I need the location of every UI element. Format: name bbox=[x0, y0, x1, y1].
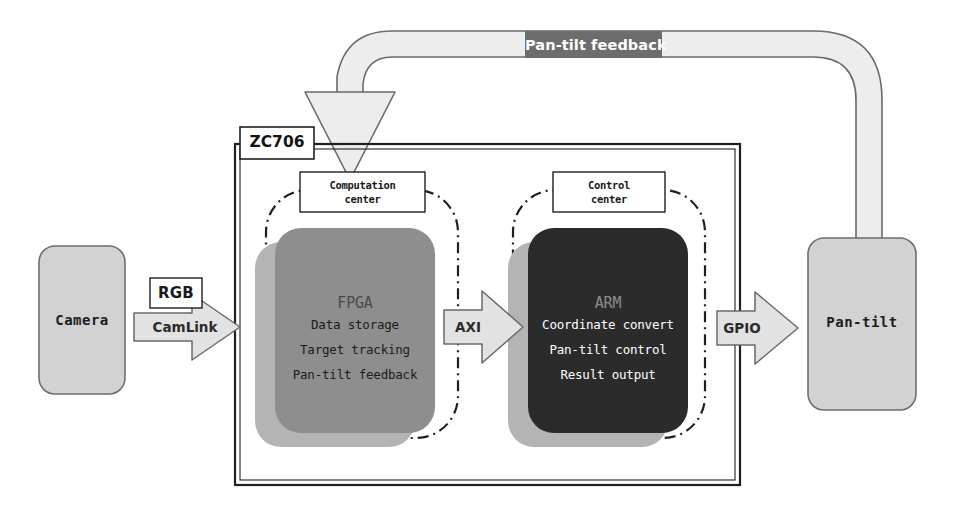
arm-item-2: Result output bbox=[520, 367, 696, 383]
feedback-arrowhead bbox=[305, 92, 395, 180]
arm-item-0: Coordinate convert bbox=[520, 317, 696, 333]
camlink-label: CamLink bbox=[140, 319, 230, 336]
camera-label: Camera bbox=[39, 312, 125, 330]
arm-item-1: Pan-tilt control bbox=[520, 342, 696, 358]
rgb-label: RGB bbox=[150, 284, 202, 303]
fpga-block bbox=[255, 228, 435, 447]
computation-center-label-line2: center bbox=[300, 192, 425, 206]
axi-label: AXI bbox=[447, 319, 489, 336]
diagram-canvas: ZC706 Pan-tilt feedback Computation cent… bbox=[0, 0, 959, 510]
diagram-vector-layer bbox=[0, 0, 959, 510]
computation-center-label-line1: Computation bbox=[300, 178, 425, 192]
control-center-label-line1: Control bbox=[553, 178, 665, 192]
gpio-label: GPIO bbox=[718, 320, 766, 337]
control-center-label-line2: center bbox=[553, 192, 665, 206]
zc706-tag-label: ZC706 bbox=[240, 133, 314, 152]
arm-title: ARM bbox=[528, 294, 688, 313]
fpga-item-1: Target tracking bbox=[275, 342, 435, 358]
arm-block bbox=[508, 228, 688, 447]
fpga-title: FPGA bbox=[275, 294, 435, 313]
feedback-banner-label: Pan-tilt feedback bbox=[525, 36, 662, 54]
fpga-item-0: Data storage bbox=[275, 317, 435, 333]
fpga-item-2: Pan-tilt feedback bbox=[271, 367, 439, 383]
pantilt-label: Pan-tilt bbox=[808, 314, 916, 332]
